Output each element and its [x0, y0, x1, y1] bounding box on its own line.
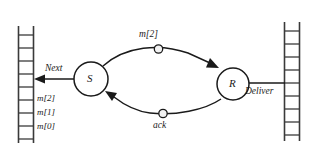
ack-edge-dot	[159, 109, 167, 117]
ack-edge	[105, 91, 221, 118]
ack-edge-curve	[114, 97, 221, 114]
ack-edge-label: ack	[153, 121, 166, 131]
next-arrow	[34, 75, 74, 84]
right-buffer	[285, 22, 300, 141]
left-buffer-slot-label: m[0]	[37, 122, 55, 131]
next-action-label: Next	[45, 64, 62, 74]
next-arrowhead	[34, 75, 45, 84]
left-buffer-slot-label: m[2]	[37, 94, 55, 103]
figure-canvas: S R m[2] ack Next Deliver m[2] m[1] m[0]	[0, 0, 316, 160]
data-edge-label: m[2]	[139, 30, 158, 40]
node-sender-label: S	[87, 73, 93, 84]
data-edge	[103, 45, 219, 68]
data-edge-arrowhead	[206, 58, 219, 68]
protocol-diagram	[0, 0, 316, 160]
node-receiver-label: R	[229, 78, 236, 89]
data-edge-dot	[154, 45, 162, 53]
deliver-action-label: Deliver	[245, 87, 274, 97]
ack-edge-arrowhead	[105, 91, 117, 101]
left-buffer-slot-label: m[1]	[37, 108, 55, 117]
left-buffer	[19, 26, 34, 143]
